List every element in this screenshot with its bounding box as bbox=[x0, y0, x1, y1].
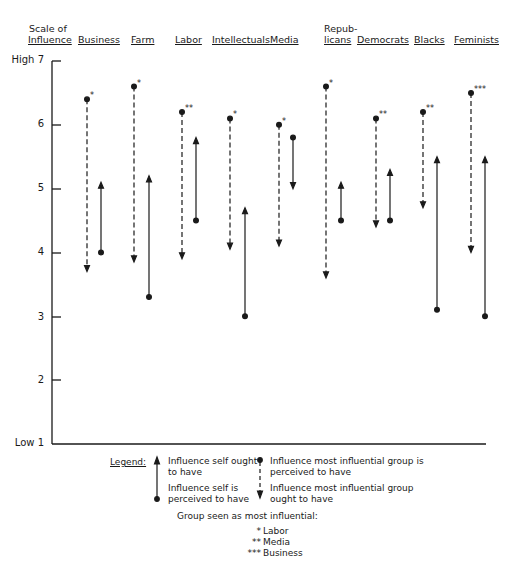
marker-labor: ** bbox=[185, 104, 193, 113]
solid-arrow-blacks bbox=[435, 157, 440, 313]
legend-solid-ought-2: to have bbox=[168, 467, 202, 478]
solid-arrow-republicans bbox=[339, 182, 344, 223]
marker-farm: * bbox=[137, 79, 141, 88]
legend-group-title: Group seen as most influential: bbox=[177, 511, 318, 522]
legend-key-mark-2: ** bbox=[241, 537, 261, 548]
series-layer: ************** bbox=[85, 79, 488, 319]
marker-democrats: ** bbox=[379, 110, 387, 119]
solid-arrow-farm bbox=[147, 176, 152, 300]
legend-dashed-perceived: Influence most influential group is bbox=[270, 456, 424, 467]
marker-feminists: *** bbox=[474, 85, 486, 94]
marker-blacks: ** bbox=[426, 104, 434, 113]
solid-arrow-business bbox=[99, 182, 104, 255]
legend-solid-arrow-icon bbox=[155, 457, 160, 501]
axes bbox=[52, 61, 486, 444]
dashed-arrow-farm bbox=[132, 84, 137, 262]
legend-key-mark-3: *** bbox=[241, 548, 261, 559]
marker-intellectuals: * bbox=[233, 110, 237, 119]
dashed-arrow-media bbox=[277, 122, 282, 246]
legend-dashed-perceived-2: perceived to have bbox=[270, 467, 351, 478]
legend-dashed-ought: Influence most influential group bbox=[270, 483, 414, 494]
dashed-arrow-labor bbox=[180, 110, 185, 259]
solid-arrow-media bbox=[291, 135, 296, 188]
solid-arrow-democrats bbox=[388, 169, 393, 222]
dashed-arrow-blacks bbox=[421, 110, 426, 208]
dashed-arrow-republicans bbox=[324, 84, 329, 278]
legend-key-mark-1: * bbox=[241, 526, 261, 537]
solid-arrow-intellectuals bbox=[243, 208, 248, 319]
dashed-arrow-feminists bbox=[469, 91, 474, 253]
legend-solid-perceived-2: perceived to have bbox=[168, 494, 249, 505]
marker-media: * bbox=[282, 117, 286, 126]
marker-republicans: * bbox=[329, 79, 333, 88]
legend-key-label-2: Media bbox=[263, 537, 290, 548]
solid-arrow-feminists bbox=[483, 157, 488, 319]
legend-key-label-3: Business bbox=[263, 548, 303, 559]
legend-dashed-arrow-icon bbox=[258, 458, 263, 498]
dashed-arrow-business bbox=[85, 97, 90, 272]
marker-business: * bbox=[90, 91, 94, 100]
legend-dashed-ought-2: ought to have bbox=[270, 494, 333, 505]
plot-area: ************** bbox=[0, 0, 508, 570]
legend-solid-perceived: Influence self is bbox=[168, 483, 238, 494]
dashed-arrow-intellectuals bbox=[228, 116, 233, 249]
solid-arrow-labor bbox=[194, 138, 199, 223]
legend-solid-ought: Influence self ought bbox=[168, 456, 257, 467]
legend-title: Legend: bbox=[110, 457, 146, 468]
dashed-arrow-democrats bbox=[374, 116, 379, 227]
legend-key-label-1: Labor bbox=[263, 526, 288, 537]
